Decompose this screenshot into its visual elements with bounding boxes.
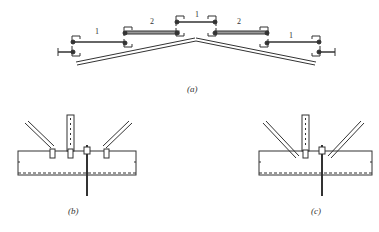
rod-label-1-right: 1 xyxy=(289,31,293,40)
caption-c: (c) xyxy=(311,206,321,216)
purlin-5 xyxy=(260,27,269,47)
caption-a: (a) xyxy=(187,84,198,94)
rod-label-2-right: 2 xyxy=(237,17,241,26)
caption-b: (b) xyxy=(68,206,79,216)
rod-label-1-left: 1 xyxy=(95,27,99,36)
purlin-3 xyxy=(175,16,184,36)
purlin-6 xyxy=(312,36,321,56)
rod-2-left xyxy=(126,31,179,34)
panel-b-detail xyxy=(18,115,136,196)
purlin-2 xyxy=(123,27,132,47)
rod-2-right xyxy=(215,31,268,34)
diagram-canvas xyxy=(0,0,379,232)
purlin-1 xyxy=(71,36,80,56)
rod-label-1-center: 1 xyxy=(195,10,199,19)
purlin-4 xyxy=(208,16,217,36)
rod-label-2-left: 2 xyxy=(150,17,154,26)
panel-c-detail xyxy=(259,115,372,196)
